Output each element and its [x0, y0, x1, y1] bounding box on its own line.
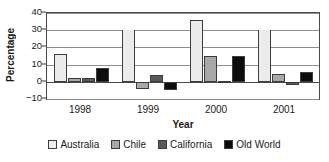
legend-swatch-icon	[48, 140, 57, 149]
bar	[272, 74, 285, 82]
x-tick-label: 1999	[137, 104, 159, 115]
bar-group	[115, 13, 183, 99]
plot-area	[46, 12, 320, 100]
x-tick-label: 2001	[273, 104, 295, 115]
bar	[190, 20, 203, 82]
bar	[286, 82, 299, 85]
bar	[82, 78, 95, 82]
legend-label: Australia	[60, 139, 99, 150]
bar-group	[183, 13, 251, 99]
legend-item: California	[158, 139, 212, 150]
bar	[96, 68, 109, 82]
legend-label: Old World	[236, 139, 280, 150]
legend-swatch-icon	[224, 140, 233, 149]
bar	[122, 30, 135, 82]
bar	[218, 81, 231, 83]
chart-legend: AustraliaChileCaliforniaOld World	[0, 139, 329, 150]
y-axis-tick-labels: −10010203040	[18, 12, 42, 100]
x-tick-label: 2000	[205, 104, 227, 115]
bar	[204, 56, 217, 82]
legend-item: Old World	[224, 139, 280, 150]
bar-chart: Percentage −10010203040 1998199920002001…	[0, 0, 329, 162]
legend-swatch-icon	[111, 140, 120, 149]
legend-item: Australia	[48, 139, 99, 150]
legend-label: Chile	[123, 139, 146, 150]
bar	[300, 72, 313, 81]
bar-group	[47, 13, 115, 99]
x-tick-label: 1998	[69, 104, 91, 115]
legend-label: California	[170, 139, 212, 150]
bar	[164, 82, 177, 91]
bar-group	[251, 13, 319, 99]
y-axis-title: Percentage	[0, 0, 20, 110]
gridline	[47, 99, 319, 100]
y-tick-label: 40	[31, 7, 42, 17]
legend-swatch-icon	[158, 140, 167, 149]
y-tick-label: 20	[31, 42, 42, 52]
y-axis-title-text: Percentage	[5, 28, 16, 82]
bar	[136, 82, 149, 89]
legend-item: Chile	[111, 139, 146, 150]
y-tick-label: −10	[26, 93, 42, 103]
bar	[150, 75, 163, 82]
bar	[232, 56, 245, 82]
bar	[68, 78, 81, 81]
bar	[258, 30, 271, 82]
y-tick-label: 10	[31, 59, 42, 69]
x-axis-tick-labels: 1998199920002001	[46, 104, 320, 118]
x-axis-title: Year	[46, 119, 320, 130]
bar	[54, 54, 67, 82]
y-tick-label: 30	[31, 24, 42, 34]
